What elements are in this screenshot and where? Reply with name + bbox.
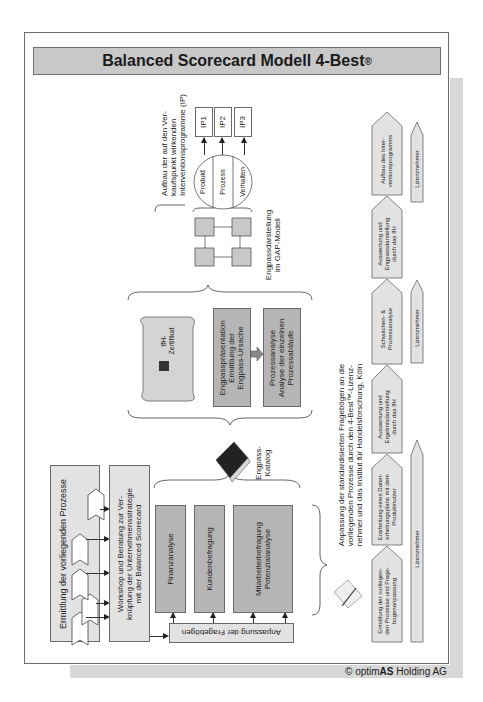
timeline-step-1: Ermittlung der vorliegen-den Prozesse un… (372, 560, 402, 642)
timeline-step-4: Schwächen- &Prozessanalyse (372, 293, 402, 364)
copyright: © optimAS Holding AG (345, 666, 447, 677)
timeline-step-3: Auswertung undErgebnisdarstellungdurch d… (372, 380, 402, 453)
lizenznehmer-3: Lizenznehmer (411, 135, 423, 202)
timeline-step-6: Aufbau des Inter-ventionsprogramms (372, 126, 402, 195)
lizenznehmer-2: Lizenznehmer (411, 292, 423, 363)
timeline-step-2: Erarbeitung eines Daten-erhebungsplans m… (372, 468, 402, 545)
lizenznehmer-1: Lizenznehmer (411, 455, 423, 642)
timeline-step-5: Auswertung undEngpassdarstellungdurch da… (372, 210, 402, 278)
